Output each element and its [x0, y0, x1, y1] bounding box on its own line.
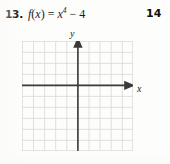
textbook-problem-page: 13. f(x) = x4 − 4 14 [0, 0, 170, 164]
constant-term: 4 [79, 7, 85, 21]
page-number: 14 [146, 7, 161, 20]
equals-sign: = [48, 7, 55, 21]
exponent: 4 [63, 6, 67, 15]
y-axis-arrowhead [74, 41, 81, 47]
x-axis-arrowhead [125, 82, 133, 89]
problem-header: 13. f(x) = x4 − 4 14 [0, 0, 170, 30]
minus-sign: − [70, 7, 77, 21]
grid-canvas [22, 41, 133, 151]
coordinate-grid-figure: y x [22, 41, 133, 151]
problem-number: 13. [5, 8, 23, 20]
paren-close: ) [41, 7, 45, 21]
function-expression: f(x) = x4 − 4 [28, 7, 85, 22]
x-axis-label: x [137, 83, 141, 94]
y-axis-label: y [70, 28, 74, 39]
